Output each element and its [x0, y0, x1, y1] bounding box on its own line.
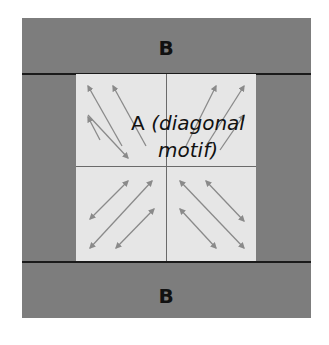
diagonal-arrows-icon [0, 0, 329, 345]
center-label-line1: (diagonal [151, 111, 245, 135]
center-label-line2: motif) [118, 137, 258, 164]
center-label: A (diagonal motif) [118, 110, 258, 164]
center-label-letter: A [131, 111, 145, 135]
